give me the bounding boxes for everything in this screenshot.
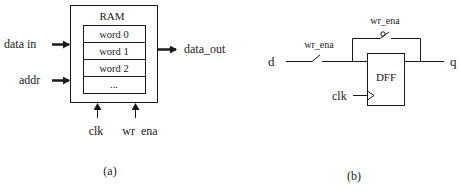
clk-label: clk xyxy=(89,124,104,138)
addr-label: addr xyxy=(19,73,40,87)
d-label: d xyxy=(268,54,275,69)
switch-in-icon xyxy=(312,55,320,62)
caption-b: (b) xyxy=(347,169,361,183)
data-in-label: data in xyxy=(4,37,36,51)
word-row-0: word 0 xyxy=(99,29,128,40)
wr-ena-label: wr ena xyxy=(122,124,158,138)
caption-a: (a) xyxy=(103,164,116,178)
q-label: q xyxy=(450,54,457,69)
clock-triangle-icon xyxy=(368,91,375,100)
word-row-2: word 2 xyxy=(99,63,128,74)
ram-title: RAM xyxy=(99,10,124,22)
panel-a: RAM word 0 word 1 word 2 ... data in add… xyxy=(4,6,226,179)
dff-label: DFF xyxy=(376,71,396,83)
panel-b: d wr_ena wr_ena DFF clk q (b) xyxy=(268,15,457,183)
switch-feedback-label: wr_ena xyxy=(370,15,400,26)
word-row-1: word 1 xyxy=(99,46,128,57)
clk-label-b: clk xyxy=(332,89,347,103)
word-row-ellipsis: ... xyxy=(110,79,118,90)
data-out-label: data_out xyxy=(184,42,226,56)
switch-in-label: wr_ena xyxy=(304,39,334,50)
